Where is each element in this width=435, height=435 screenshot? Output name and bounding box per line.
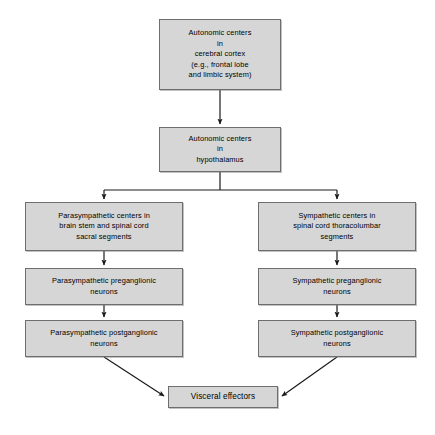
node-label: Parasympathetic centers in brain stem an… [30,211,178,243]
node-label: Autonomic centers in cerebral cortex (e.… [164,28,276,81]
node-label: Sympathetic postganglionic neurons [263,328,411,349]
edge-sympathetic-postganglionic-to-visceral-effectors [282,357,337,396]
node-parasympathetic-postganglionic-neurons: Parasympathetic postganglionic neurons [25,320,183,357]
node-visceral-effectors: Visceral effectors [168,386,278,408]
node-label: Visceral effectors [173,391,273,403]
node-label: Autonomic centers in hypothalamus [164,134,276,166]
node-autonomic-centers-hypothalamus: Autonomic centers in hypothalamus [159,127,281,172]
node-label: Sympathetic centers in spinal cord thora… [263,211,411,243]
node-autonomic-centers-cerebral-cortex: Autonomic centers in cerebral cortex (e.… [159,19,281,90]
autonomic-nervous-system-flowchart: Autonomic centers in cerebral cortex (e.… [0,0,435,435]
node-parasympathetic-preganglionic-neurons: Parasympathetic preganglionic neurons [25,268,183,305]
node-parasympathetic-centers: Parasympathetic centers in brain stem an… [25,202,183,251]
node-label: Parasympathetic preganglionic neurons [30,276,178,297]
node-label: Sympathetic preganglionic neurons [263,276,411,297]
node-sympathetic-preganglionic-neurons: Sympathetic preganglionic neurons [258,268,416,305]
node-sympathetic-centers: Sympathetic centers in spinal cord thora… [258,202,416,251]
node-label: Parasympathetic postganglionic neurons [30,328,178,349]
node-sympathetic-postganglionic-neurons: Sympathetic postganglionic neurons [258,320,416,357]
edge-hypothalamus-branch-bus [104,172,337,190]
edge-parasympathetic-postganglionic-to-visceral-effectors [104,357,164,396]
